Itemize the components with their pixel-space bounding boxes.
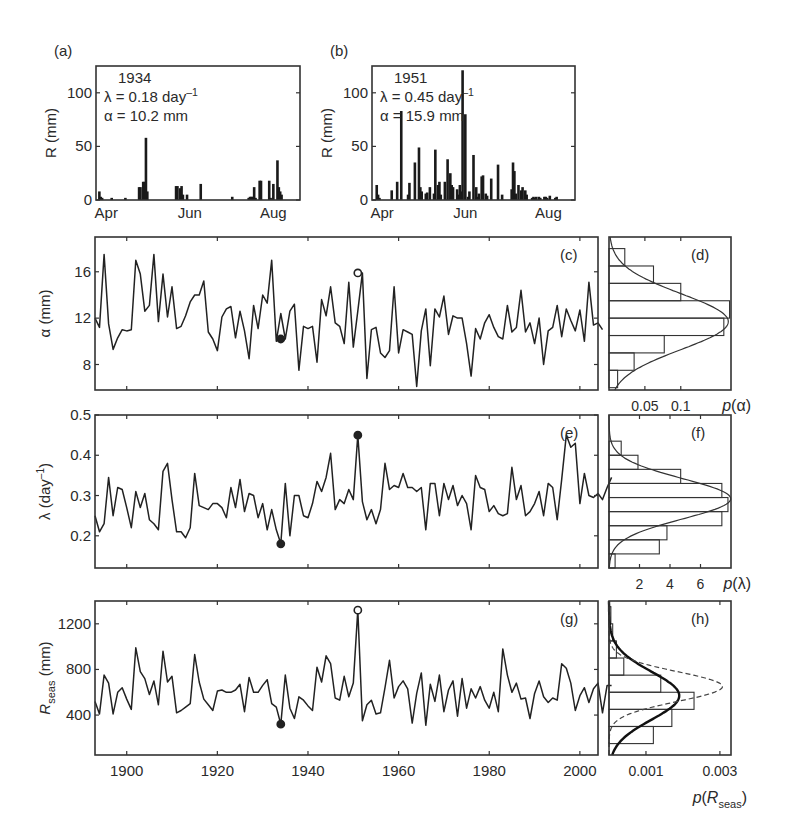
plot-frame [609,415,731,568]
histogram-bar [609,336,664,353]
plot-frame [609,601,731,755]
rain-bar [420,191,423,200]
rain-bar [482,175,485,200]
lambda-annotation: λ = 0.45 day–1 [380,86,474,105]
rain-bar [146,191,149,200]
histogram-bar [609,266,653,283]
plot-frame [96,66,300,200]
timeseries-panel-e: 0.20.30.40.5(e)λ (day–1) [35,406,612,568]
rain-bar [268,181,271,200]
series-line [95,610,612,725]
histogram-bar [609,726,653,743]
histogram-bar [609,483,722,497]
y-tick-label: 50 [75,137,92,154]
rain-bar [272,184,275,200]
histogram-panel-f: 246(f)p(λ) [609,415,751,592]
fitted-pdf-curve [609,415,731,568]
y-tick-label: 100 [343,84,368,101]
y-tick-label: 400 [66,706,91,723]
histogram-bar [609,469,681,483]
panel-label: (b) [330,42,348,59]
histogram-panel-d: 0.050.1(d)p(α) [609,237,751,414]
fitted-pdf-curve [610,237,728,390]
alpha-annotation: α = 10.2 mm [104,107,188,124]
rain-bar [439,195,442,200]
panel-label: (e) [560,424,578,441]
y-tick-label: 1200 [58,615,91,632]
histogram-panel-h: 0.0010.003(h)p(Rseas) [609,601,747,810]
x-tick-label: Aug [260,204,287,221]
fitted-pdf-curve [609,601,679,755]
highlight-marker [354,607,361,614]
rain-bar [478,194,481,200]
histogram-bar [609,318,724,335]
rain-bar [444,182,447,200]
rain-bar [199,184,202,200]
x-tick-label: 0.05 [631,398,658,414]
panel-label: (g) [560,610,578,627]
y-axis-label: Rseas (mm) [36,641,57,714]
panel-label: (h) [691,610,709,627]
y-tick-label: 100 [67,84,92,101]
x-tick-label: Aug [535,204,562,221]
rain-bar [408,183,411,200]
highlight-marker [277,540,284,547]
rain-bar [182,195,185,200]
rain-bar [280,195,283,200]
rain-bar [517,185,520,200]
y-tick-label: 8 [83,356,91,373]
y-tick-label: 0 [84,191,92,208]
rain-bar [390,190,393,200]
rainfall-panel-a: 050100AprJunAug(a)R (mm)1934λ = 0.18 day… [42,42,300,221]
year-label: 1934 [118,69,151,86]
rain-bar [472,155,475,200]
x-tick-label: Jun [453,204,477,221]
rainfall-panel-b: 050100AprJunAug(b)R (mm)1951λ = 0.45 day… [318,42,575,221]
rain-bar [446,159,449,200]
rain-bar [525,195,528,200]
rain-bar [429,187,432,200]
rain-bar [468,191,471,200]
x-tick-label: 2 [636,576,644,592]
series-line [95,435,612,544]
y-tick-label: 50 [351,137,368,154]
rain-bar [514,194,517,200]
figure: 050100AprJunAug(a)R (mm)1934λ = 0.18 day… [0,0,803,838]
histogram-bar [609,353,634,370]
x-tick-label: 2000 [563,762,596,779]
highlight-marker [277,721,284,728]
rain-bar [396,182,399,200]
rain-bar [521,187,524,200]
rain-bar [497,165,500,200]
x-tick-label: 0.003 [702,763,737,779]
x-axis-label: p(λ) [722,575,751,592]
rain-bar [452,187,455,200]
x-tick-label: 1980 [473,762,506,779]
rain-bar [501,195,504,200]
x-tick-label: 0.1 [671,398,691,414]
panel-label: (c) [560,246,578,263]
rain-bar [464,114,467,200]
rain-bar [400,111,403,200]
y-axis-label: α (mm) [36,290,53,338]
rain-bar [145,138,148,200]
y-tick-label: 0 [360,191,368,208]
x-tick-label: 0.001 [628,763,663,779]
histogram-bar [609,498,728,512]
rain-bar [426,192,429,200]
timeseries-panel-c: 81216(c)α (mm) [36,237,603,390]
histogram-bar [609,370,618,387]
rain-bar [490,179,493,200]
rain-bar [176,186,179,200]
series-line [95,254,603,386]
alpha-annotation: α = 15.9 mm [380,107,464,124]
y-tick-label: 0.5 [70,406,91,423]
histogram-bar [609,441,621,455]
y-axis-label: R (mm) [42,108,59,158]
y-tick-label: 0.4 [70,446,91,463]
x-tick-label: 4 [666,576,674,592]
lambda-annotation: λ = 0.18 day–1 [104,86,198,105]
rain-bar [414,162,417,200]
y-tick-label: 12 [74,309,91,326]
y-tick-label: 0.3 [70,487,91,504]
